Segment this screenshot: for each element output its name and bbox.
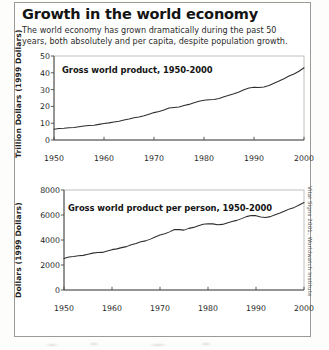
x-tick-label: 1960 <box>102 304 122 313</box>
scan-artifact <box>38 341 228 348</box>
y-tick-label: 2000 <box>16 261 60 270</box>
y-tick-label: 8000 <box>16 186 60 195</box>
x-tick-label: 1980 <box>194 154 214 163</box>
y-tick-label: 10 <box>16 119 50 128</box>
x-tick-label: 1970 <box>144 154 164 163</box>
x-tick-label: 1950 <box>54 304 74 313</box>
page-subtitle: The world economy has grown dramatically… <box>22 25 294 46</box>
x-tick-label: 1990 <box>244 154 264 163</box>
y-tick-label: 30 <box>16 85 50 94</box>
page-title: Growth in the world economy <box>22 6 302 23</box>
x-tick-label: 1960 <box>94 154 114 163</box>
x-tick-label: 1950 <box>44 154 64 163</box>
y-tick-label: 4000 <box>16 236 60 245</box>
y-tick-label: 0 <box>16 136 50 145</box>
x-tick-label: 1980 <box>198 304 218 313</box>
chart-gross-world-product: Trillion Dollars (1999 Dollars) 19501960… <box>16 52 308 170</box>
y-tick-label: 0 <box>16 286 60 295</box>
x-tick-label: 1990 <box>246 304 266 313</box>
page-canvas: Growth in the world economy The world ec… <box>0 0 329 350</box>
y-tick-label: 50 <box>16 52 50 61</box>
data-line-gross-world-product <box>54 68 304 129</box>
chart2-x-tick-labels: 195019601970198019902000 <box>30 302 308 314</box>
x-tick-label: 1970 <box>150 304 170 313</box>
source-credit: Vital Signs 2001, Worldwatch Institute <box>307 186 313 296</box>
chart1-x-tick-labels: 195019601970198019902000 <box>30 152 308 164</box>
x-tick-label: 2000 <box>294 154 314 163</box>
figure-header: Growth in the world economy The world ec… <box>22 6 302 46</box>
y-tick-label: 20 <box>16 102 50 111</box>
chart1-annotation: Gross world product, 1950-2000 <box>62 65 213 75</box>
x-tick-label: 2000 <box>294 304 314 313</box>
y-tick-label: 6000 <box>16 211 60 220</box>
chart2-annotation: Gross world product per person, 1950-200… <box>68 203 272 213</box>
y-tick-label: 40 <box>16 68 50 77</box>
chart-gross-world-product-per-person: Dollars (1999 Dollars) 19501960197019801… <box>16 186 308 320</box>
